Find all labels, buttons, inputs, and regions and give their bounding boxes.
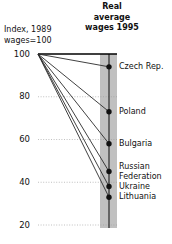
data-point: [106, 141, 111, 146]
y-tick-label: 60: [6, 135, 30, 144]
slope-line: [38, 54, 109, 172]
y-tick-label: 80: [6, 92, 30, 101]
y-tick-label: 40: [6, 178, 30, 187]
slope-lines: [38, 54, 109, 197]
series-label: Ukraine: [119, 182, 150, 192]
series-label: Bulgaria: [119, 139, 152, 149]
value-band: [100, 54, 117, 228]
slope-line: [38, 54, 109, 67]
slope-line: [38, 54, 109, 112]
slope-line: [38, 54, 109, 197]
plot-area: [0, 0, 172, 244]
data-point: [106, 169, 111, 174]
y-tick-label: 20: [6, 221, 30, 230]
data-point: [106, 64, 111, 69]
data-point: [106, 109, 111, 114]
y-tick-label: 100: [6, 50, 30, 59]
slope-line: [38, 54, 109, 144]
data-point: [106, 195, 111, 200]
slope-chart: Real average wages 1995 Index, 1989 wage…: [0, 0, 172, 244]
series-label: Czech Rep.: [119, 62, 163, 72]
series-label: Lithuania: [119, 192, 156, 202]
data-point: [106, 184, 111, 189]
slope-line: [38, 54, 109, 187]
series-label: Poland: [119, 107, 146, 117]
series-label: Russian Federation: [119, 162, 162, 181]
